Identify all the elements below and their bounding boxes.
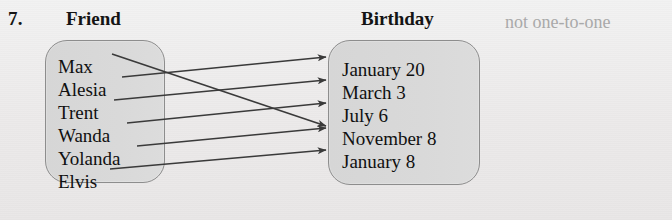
arrow-3: [114, 80, 326, 100]
arrow-4: [127, 103, 326, 123]
arrow-6: [110, 150, 326, 169]
arrow-5: [137, 128, 326, 146]
mapping-arrows: [0, 0, 672, 220]
